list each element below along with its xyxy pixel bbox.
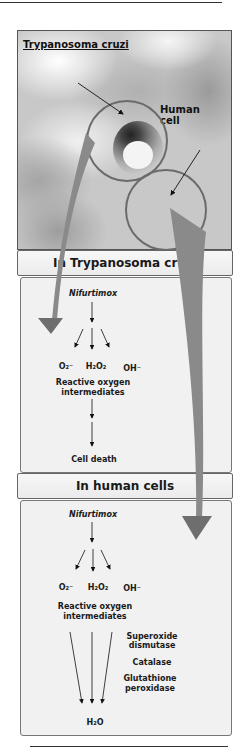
panel-trypanosoma [20, 277, 232, 473]
species-hydrogen-peroxide: H₂O₂ [84, 362, 108, 372]
enzyme-superoxide-dismutase-line2: dismutase [124, 641, 180, 651]
enzyme-catalase: Catalase [124, 658, 180, 668]
drug-label: Nifurtimox [68, 289, 118, 299]
species-superoxide: O₂⁻ [58, 583, 74, 593]
roi-label-line2: intermediates [54, 612, 136, 622]
enzyme-glutathione-peroxidase-line1: Glutathione [118, 674, 182, 684]
outcome-water: H₂O [80, 718, 110, 728]
species-hydroxide: OH⁻ [122, 364, 142, 374]
top-rule [0, 2, 222, 3]
roi-label-line2: intermediates [52, 388, 134, 398]
section-header-human: In human cells [17, 473, 233, 499]
species-superoxide: O₂⁻ [58, 362, 74, 372]
roi-label-line1: Reactive oxygen [54, 602, 136, 612]
bottom-rule [30, 746, 228, 747]
species-hydrogen-peroxide: H₂O₂ [86, 583, 110, 593]
roi-label-line1: Reactive oxygen [52, 378, 134, 388]
label-human-cell: Human cell [160, 104, 200, 126]
section-header-trypanosoma: In Trypanosoma cruzi [17, 250, 233, 276]
drug-label: Nifurtimox [68, 510, 118, 520]
human-cell-zoom-circle [125, 169, 207, 251]
species-hydroxide: OH⁻ [122, 584, 142, 594]
label-trypanosoma-cruzi: Trypanosoma cruzi [23, 39, 129, 50]
section-header-label: In human cells [76, 479, 174, 493]
outcome-cell-death: Cell death [62, 455, 126, 465]
enzyme-glutathione-peroxidase-line2: peroxidase [118, 684, 182, 694]
section-header-label: In Trypanosoma cruzi [53, 256, 197, 270]
